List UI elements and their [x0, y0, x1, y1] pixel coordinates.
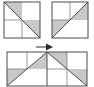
tile-transformation-diagram: Tile dissection transformation Two squar… — [0, 0, 94, 87]
diagram-canvas — [0, 0, 94, 87]
result-rectangle — [7, 52, 87, 86]
transformation-arrow — [36, 44, 53, 51]
arrow-head — [46, 44, 53, 51]
tile-left — [4, 2, 40, 38]
tile-right — [52, 2, 88, 38]
